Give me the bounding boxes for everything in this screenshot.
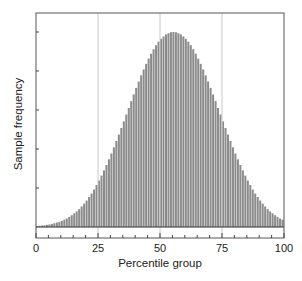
histogram-bar bbox=[172, 32, 174, 227]
histogram-bar bbox=[83, 204, 85, 227]
histogram-bar bbox=[93, 190, 95, 227]
histogram-bar bbox=[220, 115, 222, 227]
histogram-bar bbox=[215, 101, 217, 227]
histogram-bar bbox=[148, 59, 150, 227]
histogram-bar bbox=[195, 54, 197, 227]
histogram-bar bbox=[150, 54, 152, 227]
histogram-bar bbox=[165, 34, 167, 227]
x-tick-label-0: 0 bbox=[33, 242, 39, 254]
histogram-bar bbox=[262, 204, 264, 227]
histogram-bar bbox=[232, 147, 234, 227]
histogram-bar bbox=[247, 181, 249, 227]
histogram-bar bbox=[128, 108, 130, 227]
histogram-bar bbox=[224, 128, 226, 227]
histogram-bar bbox=[123, 121, 125, 227]
histogram-bar bbox=[162, 36, 164, 227]
histogram-bar bbox=[167, 33, 169, 227]
histogram-bar bbox=[200, 64, 202, 227]
histogram-bar bbox=[153, 49, 155, 227]
histogram-bar bbox=[212, 94, 214, 227]
histogram-bar bbox=[192, 49, 194, 227]
histogram-bar bbox=[158, 42, 160, 227]
histogram-bar bbox=[205, 75, 207, 227]
histogram-bar bbox=[182, 36, 184, 227]
histogram-bar bbox=[257, 197, 259, 227]
histogram-bar bbox=[78, 209, 80, 227]
histogram-bar bbox=[239, 165, 241, 227]
histogram-bar bbox=[115, 141, 117, 227]
histogram-bar bbox=[197, 59, 199, 227]
histogram-bar bbox=[71, 215, 73, 227]
histogram-bar bbox=[110, 153, 112, 227]
histogram-bar bbox=[140, 75, 142, 227]
histogram-bar bbox=[138, 82, 140, 227]
histogram-bar bbox=[177, 33, 179, 227]
histogram-bar bbox=[252, 190, 254, 227]
histogram-bar bbox=[86, 201, 88, 227]
histogram-bar bbox=[155, 45, 157, 227]
histogram-bar bbox=[58, 222, 60, 227]
histogram-bar bbox=[170, 32, 172, 227]
histogram-bar bbox=[63, 220, 65, 227]
histogram-bar bbox=[244, 176, 246, 227]
histogram-bar bbox=[100, 176, 102, 227]
histogram-bar bbox=[135, 88, 137, 227]
histogram-bar bbox=[143, 69, 145, 227]
histogram-bar bbox=[130, 101, 132, 227]
histogram-bar bbox=[120, 128, 122, 227]
histogram-bar bbox=[217, 108, 219, 227]
histogram-bar bbox=[53, 223, 55, 227]
histogram-bar bbox=[66, 219, 68, 227]
histogram-bar bbox=[227, 135, 229, 227]
y-axis-label: Sample frequency bbox=[12, 77, 24, 170]
histogram-bar bbox=[180, 34, 182, 227]
histogram-bar bbox=[113, 147, 115, 227]
x-tick-label-75: 75 bbox=[216, 242, 228, 254]
histogram-bar bbox=[242, 170, 244, 227]
histogram-bar bbox=[133, 94, 135, 227]
histogram-bar bbox=[76, 211, 78, 227]
x-tick-label-100: 100 bbox=[275, 242, 293, 254]
histogram-bar bbox=[269, 211, 271, 227]
histogram-bar bbox=[254, 194, 256, 227]
histogram-bar bbox=[118, 135, 120, 227]
histogram-bar bbox=[190, 45, 192, 227]
histogram-bar bbox=[81, 206, 83, 227]
histogram-bar bbox=[88, 197, 90, 227]
histogram-bar bbox=[91, 194, 93, 227]
histogram-bar bbox=[274, 215, 276, 227]
histogram-bar bbox=[237, 159, 239, 227]
histogram-bar bbox=[264, 206, 266, 227]
histogram-bar bbox=[103, 170, 105, 227]
histogram-bar bbox=[61, 221, 63, 227]
histogram-bar bbox=[96, 185, 98, 227]
histogram-bar bbox=[267, 209, 269, 227]
histogram-bar bbox=[187, 42, 189, 227]
histogram-bar bbox=[185, 39, 187, 227]
x-tick-label-50: 50 bbox=[154, 242, 166, 254]
histogram-bar bbox=[229, 141, 231, 227]
histogram-bar bbox=[105, 165, 107, 227]
x-axis-label: Percentile group bbox=[118, 257, 202, 269]
histogram-bar bbox=[207, 82, 209, 227]
histogram-bar bbox=[145, 64, 147, 227]
histogram-bar bbox=[259, 201, 261, 227]
histogram-bar bbox=[282, 220, 284, 227]
histogram-bar bbox=[108, 159, 110, 227]
histogram-bar bbox=[272, 213, 274, 227]
histogram-bar bbox=[249, 185, 251, 227]
histogram-chart: 0 25 50 75 100 Percentile group Sample f… bbox=[0, 0, 302, 281]
histogram-bar bbox=[234, 153, 236, 227]
histogram-bar bbox=[175, 32, 177, 227]
histogram-bar bbox=[125, 115, 127, 227]
histogram-bar bbox=[279, 219, 281, 227]
histogram-bar bbox=[277, 217, 279, 227]
histogram-bar bbox=[73, 213, 75, 227]
x-tick-label-25: 25 bbox=[92, 242, 104, 254]
histogram-bar bbox=[56, 223, 58, 227]
histogram-bar bbox=[210, 88, 212, 227]
histogram-bar bbox=[68, 217, 70, 227]
histogram-bar bbox=[202, 69, 204, 227]
